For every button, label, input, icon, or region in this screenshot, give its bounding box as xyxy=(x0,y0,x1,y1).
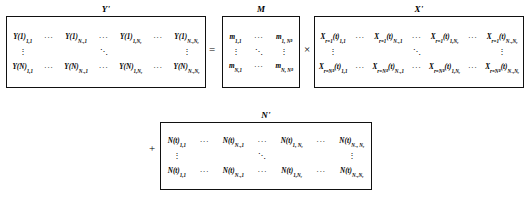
matrix-entry: Y(N)1,Nᵧ xyxy=(119,63,143,72)
ellipsis: ··· xyxy=(257,137,268,146)
matrix-entry xyxy=(203,152,206,161)
matrix-y-box: Y(1)1,1···Y(1)Nₓ,1···Y(1)1,Nᵧ···Y(1)Nₓ,N… xyxy=(6,16,206,88)
ellipsis: ⋮ xyxy=(280,48,289,56)
matrix-entry: N(t)Nₓ,1 xyxy=(222,167,244,176)
multiply-operator: × xyxy=(300,44,314,55)
matrix-entry xyxy=(320,152,323,161)
matrix-entry: N(t)1,Nᵧ xyxy=(281,167,303,176)
ellipsis: ⋱ xyxy=(258,152,267,160)
ellipsis: ··· xyxy=(199,137,210,146)
matrix-n-label: N' xyxy=(160,110,372,120)
matrix-x-label: X' xyxy=(314,4,524,14)
ellipsis: ··· xyxy=(467,63,478,72)
ellipsis: ··· xyxy=(98,63,109,72)
matrix-entry: Y(1)1,Nᵧ xyxy=(119,33,142,42)
matrix-n-box: N(t)1,1···N(t)Nₓ,1···N(t)1, Nᵧ···N(t)Nₓ,… xyxy=(160,122,372,190)
matrix-entry: Y(N)1,1 xyxy=(12,63,34,72)
matrix-entry: Y(N)Nₓ,1 xyxy=(64,63,89,72)
ellipsis: ⋮ xyxy=(172,152,181,160)
matrix-entry: mN,1 xyxy=(228,62,242,71)
ellipsis: ··· xyxy=(355,63,366,72)
matrix-entry: Xr=1(t)Nₓ,1 xyxy=(374,33,403,42)
matrix-entry: N(t)Nₓ, Nᵧ xyxy=(339,137,365,146)
matrix-entry: N(t)Nₓ,Nᵧ xyxy=(339,167,364,176)
matrix-entry: Xr=1(t)Nₓ,Nᵧ xyxy=(486,33,518,42)
matrix-entry: N(t)1,1 xyxy=(167,167,186,176)
ellipsis: ··· xyxy=(253,62,264,71)
ellipsis: ··· xyxy=(467,33,478,42)
matrix-entry: Xr=Nᴿ(t)1,1 xyxy=(318,63,348,72)
ellipsis: ⋮ xyxy=(329,48,338,56)
matrix-entry: m1, Nᴿ xyxy=(275,33,293,42)
ellipsis: ··· xyxy=(316,137,327,146)
matrix-entry: Xr=Nᴿ(t)1,Nᵧ xyxy=(429,63,461,72)
equals-operator: = xyxy=(205,44,219,55)
ellipsis: ··· xyxy=(411,33,422,42)
matrix-y-grid: Y(1)1,1···Y(1)Nₓ,1···Y(1)1,Nᵧ···Y(1)Nₓ,N… xyxy=(7,33,205,72)
matrix-entry: Y(1)Nₓ,Nᵧ xyxy=(174,33,199,42)
matrix-x-grid: Xr=1(t)1,1···Xr=1(t)Nₓ,1···Xr=1(t)1,Nᵧ··… xyxy=(315,33,523,72)
matrix-entry xyxy=(471,48,474,57)
matrix-entry xyxy=(443,48,446,57)
ellipsis: ⋱ xyxy=(412,48,421,56)
matrix-entry: Y(N)Nₓ,Nᵧ xyxy=(173,63,200,72)
matrix-entry xyxy=(387,48,390,57)
ellipsis: ··· xyxy=(253,33,264,42)
ellipsis: ··· xyxy=(355,33,366,42)
ellipsis: ··· xyxy=(44,33,55,42)
ellipsis: ··· xyxy=(153,63,164,72)
matrix-x-box: Xr=1(t)1,1···Xr=1(t)Nₓ,1···Xr=1(t)1,Nᵧ··… xyxy=(314,16,524,88)
matrix-entry xyxy=(47,48,50,57)
matrix-n: N' N(t)1,1···N(t)Nₓ,1···N(t)1, Nᵧ···N(t)… xyxy=(160,110,372,190)
matrix-entry: m1,1 xyxy=(229,33,242,42)
matrix-entry: Xr=1(t)1,1 xyxy=(320,33,346,42)
matrix-entry xyxy=(129,48,132,57)
matrix-entry: Xr=1(t)1,Nᵧ xyxy=(430,33,459,42)
matrix-y-label: Y' xyxy=(6,4,206,14)
ellipsis: ··· xyxy=(98,33,109,42)
matrix-entry xyxy=(232,152,235,161)
matrix-n-grid: N(t)1,1···N(t)Nₓ,1···N(t)1, Nᵧ···N(t)Nₓ,… xyxy=(161,137,371,176)
matrix-entry xyxy=(75,48,78,57)
matrix-m: M m1,1···m1, Nᴿ⋮⋱⋮mN,1···mN, Nᴿ xyxy=(222,4,300,88)
ellipsis: ··· xyxy=(44,63,55,72)
ellipsis: ⋱ xyxy=(99,48,108,56)
matrix-y: Y' Y(1)1,1···Y(1)Nₓ,1···Y(1)1,Nᵧ···Y(1)N… xyxy=(6,4,206,88)
ellipsis: ··· xyxy=(257,167,268,176)
ellipsis: ⋮ xyxy=(231,48,240,56)
matrix-entry xyxy=(359,48,362,57)
matrix-entry: N(t)1,1 xyxy=(167,137,186,146)
ellipsis: ··· xyxy=(199,167,210,176)
matrix-m-box: m1,1···m1, Nᴿ⋮⋱⋮mN,1···mN, Nᴿ xyxy=(222,16,300,88)
ellipsis: ⋮ xyxy=(498,48,507,56)
matrix-entry xyxy=(157,48,160,57)
matrix-m-grid: m1,1···m1, Nᴿ⋮⋱⋮mN,1···mN, Nᴿ xyxy=(223,33,299,71)
ellipsis: ··· xyxy=(411,63,422,72)
matrix-m-label: M xyxy=(222,4,300,14)
matrix-entry: Xr=Nᴿ(t)Nₓ,1 xyxy=(372,63,405,72)
matrix-entry: Y(1)Nₓ,1 xyxy=(65,33,88,42)
ellipsis: ··· xyxy=(153,33,164,42)
matrix-entry: Y(1)1,1 xyxy=(13,33,33,42)
matrix-entry xyxy=(290,152,293,161)
ellipsis: ⋱ xyxy=(254,48,263,56)
ellipsis: ⋮ xyxy=(182,48,191,56)
matrix-entry: Xr=Nᴿ(t)Nₓ,Nᵧ xyxy=(485,63,520,72)
equation-canvas: Y' Y(1)1,1···Y(1)Nₓ,1···Y(1)1,Nᵧ···Y(1)N… xyxy=(0,0,528,204)
matrix-x: X' Xr=1(t)1,1···Xr=1(t)Nₓ,1···Xr=1(t)1,N… xyxy=(314,4,524,88)
ellipsis: ⋮ xyxy=(18,48,27,56)
ellipsis: ··· xyxy=(316,167,327,176)
matrix-entry: N(t)1, Nᵧ xyxy=(280,137,303,146)
ellipsis: ⋮ xyxy=(347,152,356,160)
plus-operator: + xyxy=(145,143,159,154)
matrix-entry: N(t)Nₓ,1 xyxy=(222,137,244,146)
matrix-entry: mN, Nᴿ xyxy=(275,62,294,71)
